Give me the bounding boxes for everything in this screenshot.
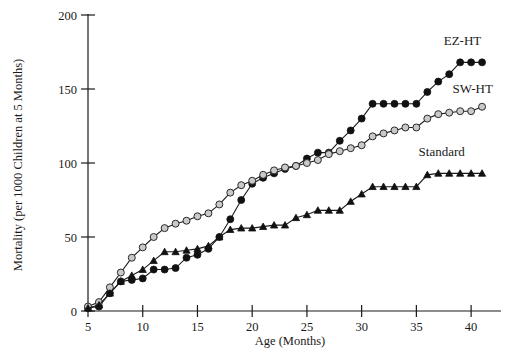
data-point xyxy=(424,115,431,122)
y-tick-label-100: 100 xyxy=(58,157,77,171)
x-tick-label-20: 20 xyxy=(246,320,259,334)
data-point xyxy=(183,254,190,261)
data-point xyxy=(150,234,157,241)
data-point xyxy=(347,127,354,134)
data-point xyxy=(435,111,442,118)
data-point xyxy=(227,216,234,223)
data-point xyxy=(468,108,475,115)
data-point xyxy=(227,189,234,196)
data-point xyxy=(303,160,310,167)
data-point xyxy=(161,266,168,273)
data-point xyxy=(435,78,442,85)
data-point xyxy=(139,275,146,282)
data-point xyxy=(194,213,201,220)
data-point xyxy=(292,162,299,169)
x-tick-label-25: 25 xyxy=(301,320,314,334)
data-point xyxy=(369,133,376,140)
chart-plot-area: 050100150200 510152025303540 EZ-HTSW-HTS… xyxy=(0,0,525,353)
data-point xyxy=(347,198,354,204)
data-point xyxy=(314,157,321,164)
data-point xyxy=(117,269,124,276)
data-point xyxy=(128,272,135,278)
data-point xyxy=(194,251,201,258)
data-point xyxy=(479,59,486,66)
data-point xyxy=(282,164,289,171)
data-point xyxy=(238,182,245,189)
data-point xyxy=(336,137,343,144)
data-point xyxy=(161,225,168,232)
data-point xyxy=(249,177,256,184)
data-point xyxy=(402,124,409,131)
data-point xyxy=(183,217,190,224)
data-point xyxy=(172,220,179,227)
data-point xyxy=(347,145,354,152)
x-tick-label-10: 10 xyxy=(136,320,149,334)
data-point xyxy=(391,100,398,107)
data-point xyxy=(336,148,343,155)
data-point xyxy=(358,142,365,149)
y-tick-label-200: 200 xyxy=(58,9,77,23)
x-tick-label-40: 40 xyxy=(465,320,478,334)
data-point xyxy=(216,201,223,208)
data-point xyxy=(402,100,409,107)
data-point xyxy=(457,108,464,115)
data-point xyxy=(238,197,245,204)
data-point xyxy=(424,88,431,95)
x-tick-label-5: 5 xyxy=(85,320,91,334)
series-label-ez-ht: EZ-HT xyxy=(444,33,482,48)
data-point xyxy=(128,254,135,261)
chart-figure: 050100150200 510152025303540 EZ-HTSW-HTS… xyxy=(0,0,525,353)
data-series-group xyxy=(84,59,485,312)
x-tick-label-15: 15 xyxy=(191,320,204,334)
data-point xyxy=(380,100,387,107)
data-point xyxy=(314,149,321,156)
series-label-sw-ht: SW-HT xyxy=(453,81,494,96)
x-tick-label-30: 30 xyxy=(355,320,368,334)
data-point xyxy=(479,103,486,110)
data-point xyxy=(468,59,475,66)
data-point xyxy=(358,115,365,122)
series-annotations: EZ-HTSW-HTStandard xyxy=(419,33,493,159)
x-axis-title: Age (Months) xyxy=(255,334,325,348)
data-point xyxy=(391,127,398,134)
data-point xyxy=(413,124,420,131)
y-tick-label-50: 50 xyxy=(65,231,78,245)
data-point xyxy=(205,210,212,217)
x-tick-label-35: 35 xyxy=(410,320,423,334)
series-label-standard: Standard xyxy=(419,144,466,159)
data-point xyxy=(446,109,453,116)
data-point xyxy=(150,266,157,273)
x-axis: 510152025303540 xyxy=(85,305,501,334)
series-ez-ht xyxy=(85,59,486,312)
data-point xyxy=(139,244,146,251)
data-point xyxy=(271,167,278,174)
data-point xyxy=(303,211,310,217)
data-point xyxy=(446,71,453,78)
data-point xyxy=(457,59,464,66)
data-point xyxy=(358,190,365,196)
y-axis: 050100150200 xyxy=(58,9,95,319)
y-tick-label-0: 0 xyxy=(71,305,77,319)
data-point xyxy=(413,100,420,107)
y-axis-title: Mortality (per 1000 Children at 5 Months… xyxy=(11,59,25,271)
data-point xyxy=(380,130,387,137)
data-point xyxy=(325,151,332,158)
data-point xyxy=(260,171,267,178)
series-standard xyxy=(84,170,485,311)
data-point xyxy=(369,100,376,107)
y-tick-label-150: 150 xyxy=(58,83,77,97)
data-point xyxy=(172,265,179,272)
